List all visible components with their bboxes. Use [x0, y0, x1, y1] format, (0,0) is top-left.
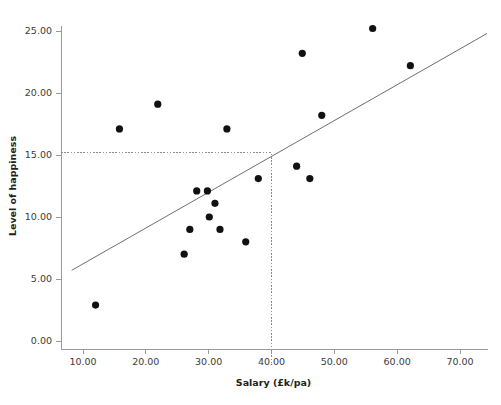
data-point-8	[211, 200, 218, 207]
y-tick-label-0: 0.00	[31, 335, 52, 346]
data-point-10	[223, 125, 230, 132]
data-point-6	[204, 187, 211, 194]
data-point-11	[242, 238, 249, 245]
y-tick-label-10: 10.00	[25, 211, 52, 222]
x-tick-label-20: 20.00	[132, 356, 159, 367]
regression-line	[72, 33, 487, 270]
data-point-3	[181, 251, 188, 258]
data-point-18	[407, 62, 414, 69]
data-point-1	[116, 125, 123, 132]
x-axis-title: Salary (£k/pa)	[236, 377, 311, 388]
data-point-7	[206, 213, 213, 220]
y-tick-label-5: 5.00	[31, 273, 52, 284]
data-point-5	[193, 187, 200, 194]
x-tick-label-50: 50.00	[321, 356, 348, 367]
x-tick-label-10: 10.00	[69, 356, 96, 367]
data-point-15	[306, 175, 313, 182]
data-point-4	[186, 226, 193, 233]
data-point-13	[293, 163, 300, 170]
data-point-16	[318, 112, 325, 119]
y-tick-label-20: 20.00	[25, 87, 52, 98]
data-point-12	[255, 175, 262, 182]
data-point-9	[216, 226, 223, 233]
data-point-2	[154, 101, 161, 108]
x-tick-label-40: 40.00	[258, 356, 285, 367]
data-point-14	[299, 50, 306, 57]
scatter-plot-figure: 0.005.0010.0015.0020.0025.0010.0020.0030…	[0, 0, 501, 405]
y-tick-label-15: 15.00	[25, 149, 52, 160]
data-point-0	[92, 301, 99, 308]
x-tick-label-70: 70.00	[446, 356, 473, 367]
y-tick-label-25: 25.00	[25, 25, 52, 36]
plot-canvas: 0.005.0010.0015.0020.0025.0010.0020.0030…	[0, 0, 501, 405]
x-tick-label-60: 60.00	[384, 356, 411, 367]
data-point-17	[369, 25, 376, 32]
x-tick-label-30: 30.00	[195, 356, 222, 367]
y-axis-title: Level of happiness	[7, 136, 18, 237]
